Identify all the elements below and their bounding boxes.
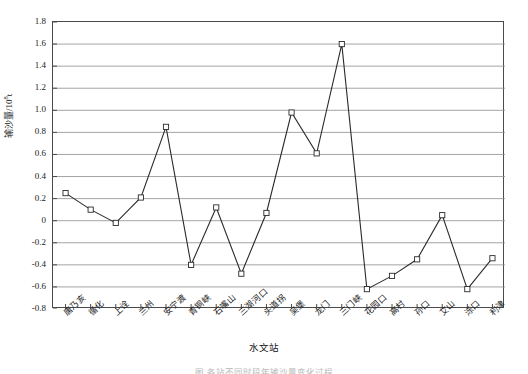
y-axis-tick-labels: 1.81.61.41.21.00.80.60.40.20-0.2-0.4-0.6… bbox=[8, 0, 46, 374]
y-axis-tick-label: 0 bbox=[12, 215, 46, 225]
x-axis-title: 水文站 bbox=[0, 340, 528, 354]
chart-figure: 输沙量/108t 1.81.61.41.21.00.80.60.40.20-0.… bbox=[0, 0, 528, 374]
y-axis-tick-label: 1.8 bbox=[12, 16, 46, 26]
data-point-marker bbox=[314, 151, 319, 156]
y-axis-tick-label: -0.6 bbox=[12, 281, 46, 291]
data-point-marker bbox=[364, 287, 369, 292]
data-point-marker bbox=[264, 210, 269, 215]
plot-svg bbox=[53, 22, 505, 309]
y-axis-tick-label: -0.2 bbox=[12, 237, 46, 247]
data-point-marker bbox=[389, 273, 394, 278]
data-point-marker bbox=[490, 256, 495, 261]
y-axis-tick-label: 0.2 bbox=[12, 193, 46, 203]
y-axis-tick-label: 0.8 bbox=[12, 126, 46, 136]
data-point-marker bbox=[63, 191, 68, 196]
figure-caption: 图 各站不同时段年输沙量变化过程 bbox=[0, 365, 528, 374]
y-axis-tick-label: 0.6 bbox=[12, 148, 46, 158]
series-line bbox=[66, 44, 493, 289]
data-point-marker bbox=[339, 41, 344, 46]
y-axis-tick-label: 1.6 bbox=[12, 38, 46, 48]
data-point-marker bbox=[113, 220, 118, 225]
gridlines bbox=[53, 22, 505, 309]
data-point-marker bbox=[138, 195, 143, 200]
y-axis-tick-label: 0.4 bbox=[12, 171, 46, 181]
data-point-marker bbox=[289, 110, 294, 115]
data-point-marker bbox=[88, 207, 93, 212]
y-axis-tick-label: -0.4 bbox=[12, 259, 46, 269]
y-axis-tick-label: 1.0 bbox=[12, 104, 46, 114]
data-point-marker bbox=[214, 205, 219, 210]
data-point-marker bbox=[189, 262, 194, 267]
series-markers bbox=[63, 41, 495, 291]
plot-area bbox=[52, 21, 504, 308]
data-point-marker bbox=[163, 124, 168, 129]
y-axis-tick-label: 1.2 bbox=[12, 82, 46, 92]
y-axis-tick-label: -0.8 bbox=[12, 303, 46, 313]
data-point-marker bbox=[239, 271, 244, 276]
data-point-marker bbox=[440, 213, 445, 218]
data-point-marker bbox=[465, 287, 470, 292]
y-axis-tick-label: 1.4 bbox=[12, 60, 46, 70]
data-point-marker bbox=[415, 257, 420, 262]
